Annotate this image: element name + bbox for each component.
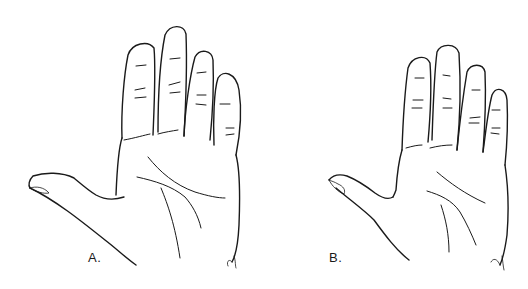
- panel-label-b: B.: [329, 250, 342, 265]
- hand-a-drawing: [29, 27, 240, 268]
- hand-illustration-figure: A. B.: [0, 0, 528, 289]
- panel-label-a: A.: [88, 250, 101, 265]
- hand-b-drawing: [329, 45, 508, 270]
